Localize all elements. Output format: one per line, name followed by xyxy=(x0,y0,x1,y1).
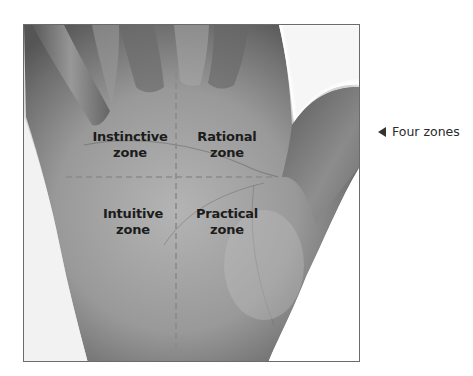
palm-illustration-frame: Instinctive zone Rational zone Intuitive… xyxy=(23,24,360,362)
zone-label-instinctive: Instinctive zone xyxy=(75,129,185,161)
left-pointer-triangle-icon xyxy=(378,127,386,137)
figure-caption: Four zones xyxy=(378,124,460,139)
zone-label-practical: Practical zone xyxy=(172,206,282,238)
zone-label-rational: Rational zone xyxy=(172,129,282,161)
caption-text: Four zones xyxy=(392,124,460,139)
palm-hand-illustration xyxy=(24,25,360,362)
